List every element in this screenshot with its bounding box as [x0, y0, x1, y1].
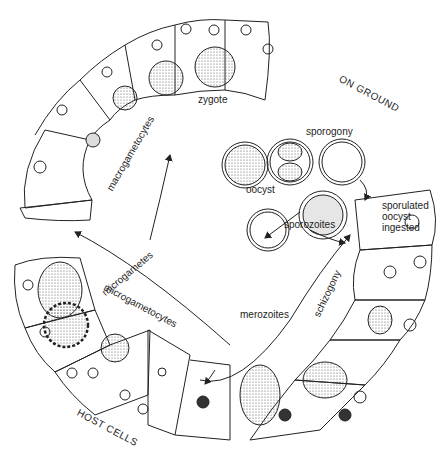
sporogony-label: sporogony — [306, 126, 353, 137]
ingested-label: ingested — [382, 222, 420, 233]
sporozoites-label: sporozoites — [284, 219, 335, 230]
merozoites-label: merozoites — [240, 309, 289, 320]
oocyst-label: oocyst — [246, 184, 275, 195]
diagram-drawing — [0, 0, 442, 457]
oocysts — [222, 139, 365, 251]
oocyst-ingested-label: oocyst — [382, 211, 411, 222]
zygote-label: zygote — [198, 94, 227, 105]
life-cycle-diagram: ON GROUND sporogony oocyst sporulated oo… — [0, 0, 442, 457]
sporulated-label: sporulated — [382, 200, 429, 211]
